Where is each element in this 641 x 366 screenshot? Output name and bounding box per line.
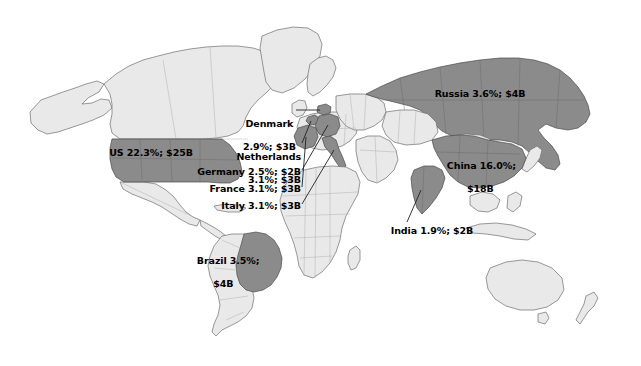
island-tasmania [538, 312, 549, 324]
country-australia [486, 260, 564, 310]
region-indonesia [466, 223, 536, 240]
country-new-zealand [576, 292, 598, 324]
label-china: China 16.0%; $18B [434, 148, 514, 206]
label-brazil: Brazil 3.5%; $4B [184, 243, 250, 301]
world-map-figure: US 22.3%; $25B Brazil 3.5%; $4B Denmark … [0, 0, 641, 366]
region-oceania [486, 260, 598, 324]
label-russia: Russia 3.6%; $4B [430, 88, 530, 100]
label-france: France 3.1%; $3B [181, 183, 301, 195]
region-central-asia-light [382, 110, 438, 145]
label-china-line2: $18B [467, 183, 494, 194]
label-brazil-line1: Brazil 3.5%; [197, 255, 260, 266]
label-india: India 1.9%; $2B [389, 225, 475, 237]
label-us: US 22.3%; $25B [103, 147, 199, 159]
label-italy: Italy 3.1%; $3B [181, 200, 301, 212]
label-china-line1: China 16.0%; [447, 160, 516, 171]
world-map-svg [0, 0, 641, 366]
country-denmark-highlight [317, 104, 331, 115]
country-alaska [30, 81, 112, 134]
country-madagascar [348, 246, 360, 270]
region-middle-east [356, 136, 398, 183]
label-denmark-line1: Denmark [246, 118, 294, 129]
label-netherlands-line1: Netherlands [236, 151, 301, 162]
label-brazil-line2: $4B [213, 278, 233, 289]
label-germany: Germany 2.5%; $2B [181, 166, 301, 178]
